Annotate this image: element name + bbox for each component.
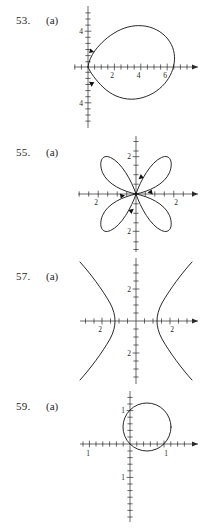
problem-part-label: (a) [46, 270, 58, 282]
y-tick-label: 2 [127, 285, 131, 294]
problem-part-label: (a) [46, 14, 58, 26]
rose-curve-plot: 2 2 2 2 [74, 132, 204, 256]
problem-number: 59. [16, 400, 30, 412]
circle-plot: 1 1 1 1 [74, 386, 204, 528]
x-tick-label: 1 [164, 449, 168, 458]
rose-petal-lower-right [136, 194, 171, 231]
x-tick-label: 2 [170, 325, 174, 334]
x-tick-label: 6 [163, 71, 167, 80]
problem-number: 53. [16, 14, 30, 26]
direction-arrow-icon [89, 49, 94, 87]
plot-ticks [83, 397, 184, 517]
cardioid-plot: 2 4 6 4 4 [74, 0, 204, 132]
problem-57-row: 57. (a) [0, 256, 204, 386]
problem-number: 57. [16, 270, 30, 282]
x-tick-label: 1 [86, 449, 90, 458]
y-tick-label: 2 [127, 349, 131, 358]
problem-55-row: 55. (a) [0, 132, 204, 256]
hyperbola-plot: 2 2 2 2 [74, 256, 204, 386]
y-tick-label: 2 [127, 152, 131, 161]
x-tick-label: 2 [98, 325, 102, 334]
y-tick-label: 1 [121, 406, 125, 415]
y-tick-label: 2 [127, 227, 131, 236]
problem-part-label: (a) [46, 400, 58, 412]
x-tick-label: 2 [94, 198, 98, 207]
plot-axes [74, 6, 198, 128]
problem-53-row: 53. (a) [0, 0, 204, 132]
y-tick-label: 4 [79, 99, 83, 108]
cardioid-curve [88, 26, 175, 100]
problem-number: 55. [16, 146, 30, 158]
problem-part-label: (a) [46, 146, 58, 158]
x-tick-label: 4 [137, 71, 141, 80]
y-tick-label: 4 [79, 27, 83, 36]
x-tick-label: 2 [110, 71, 114, 80]
y-tick-label: 1 [121, 473, 125, 482]
plot-axes [80, 391, 198, 522]
rose-petal-upper-left [101, 157, 136, 194]
problem-59-row: 59. (a) [0, 386, 204, 528]
x-tick-label: 2 [174, 198, 178, 207]
plot-axes [80, 258, 198, 384]
